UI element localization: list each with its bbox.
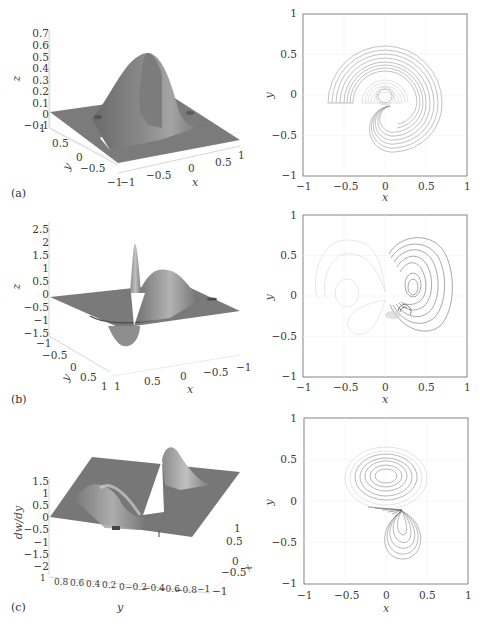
tick: 1: [464, 382, 471, 393]
tick: −1: [36, 338, 51, 349]
tick: 0: [382, 181, 389, 192]
tick: −0.5: [334, 590, 360, 601]
tick: 0.6: [32, 40, 49, 51]
tick: −1: [34, 315, 49, 326]
tick: −0.5: [272, 537, 298, 548]
tick: −0.5: [333, 181, 359, 192]
tick: −1: [282, 371, 297, 382]
tick: 0.5: [32, 276, 49, 287]
tick: 0.5: [226, 536, 243, 547]
tick: 0.5: [80, 372, 97, 383]
tick: −1: [282, 578, 297, 589]
tick: −0.8: [175, 586, 197, 595]
tick: 0.8: [54, 578, 68, 587]
tick: 1.5: [32, 250, 49, 261]
tick: 0: [42, 109, 49, 120]
tick: 2.5: [32, 224, 49, 235]
tick: 0: [70, 362, 77, 373]
panel-label-c: (c): [11, 602, 26, 613]
tick: 1: [40, 574, 46, 583]
tick: −0.5: [333, 382, 359, 393]
tick: −1: [212, 586, 227, 597]
tick: 1: [114, 381, 121, 392]
tick: −1: [296, 181, 311, 192]
tick: 1.5: [32, 476, 49, 487]
tick: 0.2: [102, 581, 116, 590]
tick: 0: [290, 290, 297, 301]
tick: 0.5: [419, 590, 436, 601]
surface-plot-c: [49, 447, 240, 593]
panel-a-surface-zlabel: z: [11, 76, 22, 82]
panel-label-a: (a): [11, 188, 26, 199]
panel-a-surface-xlabel: x: [192, 177, 198, 188]
tick: −0.5: [42, 350, 68, 361]
tick: 1: [464, 181, 471, 192]
tick: −2: [34, 561, 49, 572]
tick: 0: [290, 89, 297, 100]
tick: 0: [119, 583, 125, 592]
panel-c-contour-ylabel: y: [264, 499, 275, 505]
surface-plot-b: [49, 222, 240, 376]
tick: −1: [236, 362, 251, 373]
panel-c-surface-ylabel: y: [117, 602, 123, 613]
tick: 1: [234, 523, 241, 534]
tick: 0.5: [280, 49, 297, 60]
tick: 0: [188, 163, 195, 174]
tick: 0.5: [52, 138, 69, 149]
tick: 1: [238, 150, 245, 161]
tick: 1: [42, 263, 49, 274]
tick: 0.5: [280, 454, 297, 465]
tick: −0.5: [80, 163, 106, 174]
tick: 0.4: [32, 63, 49, 74]
tick: 1: [101, 381, 108, 392]
tick: −1: [197, 585, 210, 594]
tick: 0: [42, 512, 49, 523]
panel-b-surface-zlabel: z: [11, 284, 22, 290]
tick: 1: [39, 123, 46, 134]
tick: 0.5: [418, 181, 435, 192]
panel-label-b: (b): [11, 394, 27, 405]
tick: 0.5: [144, 376, 161, 387]
tick: 0.5: [215, 157, 232, 168]
tick: 0.2: [32, 86, 49, 97]
tick: 1: [465, 590, 472, 601]
tick: 1: [290, 210, 297, 221]
panel-c-contour-xlabel: x: [383, 603, 389, 614]
tick: 0: [180, 371, 187, 382]
tick: 0: [383, 590, 390, 601]
tick: 0: [382, 382, 389, 393]
tick: 1: [290, 413, 297, 424]
tick: 0: [76, 152, 83, 163]
tick: 2: [42, 237, 49, 248]
contour-plot-a: [303, 14, 467, 176]
tick: 1: [42, 488, 49, 499]
tick: 0.5: [32, 52, 49, 63]
panel-a-contour-ylabel: y: [264, 92, 275, 98]
tick: 0.1: [32, 98, 49, 109]
tick: 0.6: [70, 579, 84, 588]
tick: 0.7: [32, 28, 49, 39]
tick: −0.5: [272, 331, 298, 342]
panel-a-contour-xlabel: x: [382, 192, 388, 203]
tick: −0.5: [24, 302, 50, 313]
tick: 0.5: [418, 382, 435, 393]
tick: 0.4: [86, 580, 100, 589]
tick: 1: [290, 8, 297, 19]
tick: −0.5: [272, 130, 298, 141]
tick: 0.5: [32, 500, 49, 511]
panel-c-surface-zlabel: dw/dy: [13, 506, 24, 539]
tick: −1: [120, 177, 135, 188]
tick: −0.5: [24, 524, 50, 535]
tick: 0: [290, 496, 297, 507]
tick: 0.3: [32, 75, 49, 86]
tick: −0.5: [203, 367, 229, 378]
panel-b-contour-xlabel: x: [382, 394, 388, 405]
panel-b-surface-xlabel: x: [187, 384, 193, 395]
tick: −1: [296, 382, 311, 393]
tick: 0: [232, 556, 239, 567]
tick: −1: [282, 170, 297, 181]
tick: −0.5: [221, 567, 247, 578]
tick: −0.5: [146, 170, 172, 181]
tick: 0.5: [280, 250, 297, 261]
contour-plot-b: [303, 215, 467, 377]
